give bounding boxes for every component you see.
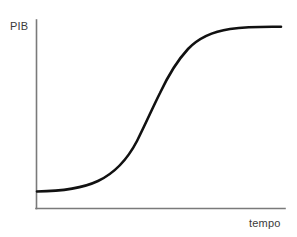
logistic-curve-path bbox=[37, 27, 281, 192]
y-axis-label: PIB bbox=[10, 20, 28, 32]
x-axis-label: tempo bbox=[249, 217, 281, 229]
plot-area bbox=[0, 0, 297, 237]
chart-figure: PIB tempo bbox=[0, 0, 297, 237]
